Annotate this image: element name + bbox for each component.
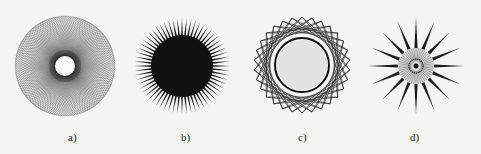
figure-d-label: d) (410, 131, 419, 143)
figure-b-starburst (134, 18, 230, 114)
figure-a-label: a) (68, 131, 77, 143)
figure-b-label: b) (181, 131, 190, 143)
figure-a-spirograph (14, 15, 116, 117)
figure-c-star-rosette (254, 17, 349, 113)
figure-d-spiked-sun (368, 18, 464, 114)
figure-c-label: c) (298, 131, 307, 143)
